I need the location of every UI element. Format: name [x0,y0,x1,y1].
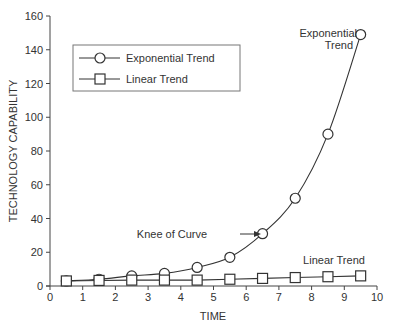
annotation-linear-trend: Linear Trend [303,254,365,266]
y-tick-label: 40 [31,213,43,225]
circle-marker-icon [225,252,235,262]
circle-marker-icon [323,129,333,139]
legend-circle-marker-icon [95,53,105,63]
square-marker-icon [159,275,169,285]
legend-label-exponential: Exponential Trend [126,52,215,64]
square-marker-icon [192,275,202,285]
square-marker-icon [356,271,366,281]
y-tick-label: 80 [31,145,43,157]
square-marker-icon [323,272,333,282]
x-tick-label: 4 [178,291,184,303]
annotation-knee-of-curve: Knee of Curve [137,228,207,240]
legend-square-marker-icon [95,74,105,84]
square-marker-icon [94,275,104,285]
square-marker-icon [127,275,137,285]
annotation-exponential-line2: Trend [325,39,353,51]
y-axis-label: TECHNOLOGY CAPABILITY [7,79,19,222]
y-tick-label: 100 [25,111,43,123]
x-axis-label: TIME [200,310,226,322]
y-tick-label: 160 [25,10,43,22]
x-tick-label: 9 [341,291,347,303]
x-tick-label: 6 [243,291,249,303]
square-marker-icon [61,276,71,286]
x-tick-label: 8 [309,291,315,303]
square-marker-icon [290,273,300,283]
y-tick-label: 20 [31,246,43,258]
square-marker-icon [225,274,235,284]
y-tick-label: 120 [25,78,43,90]
x-tick-label: 5 [210,291,216,303]
square-marker-icon [258,273,268,283]
x-tick-label: 0 [47,291,53,303]
x-tick-label: 3 [145,291,151,303]
annotation-exponential-line1: Exponential [300,27,358,39]
x-tick-label: 7 [276,291,282,303]
circle-marker-icon [290,193,300,203]
y-tick-label: 0 [37,280,43,292]
y-tick-label: 60 [31,179,43,191]
y-tick-label: 140 [25,44,43,56]
x-tick-label: 1 [80,291,86,303]
circle-marker-icon [356,30,366,40]
legend-label-linear: Linear Trend [126,73,188,85]
x-tick-label: 10 [371,291,383,303]
technology-trend-chart: 020406080100120140160012345678910 TIME T… [0,0,393,332]
x-tick-label: 2 [112,291,118,303]
circle-marker-icon [192,262,202,272]
legend: Exponential Trend Linear Trend [73,45,240,91]
